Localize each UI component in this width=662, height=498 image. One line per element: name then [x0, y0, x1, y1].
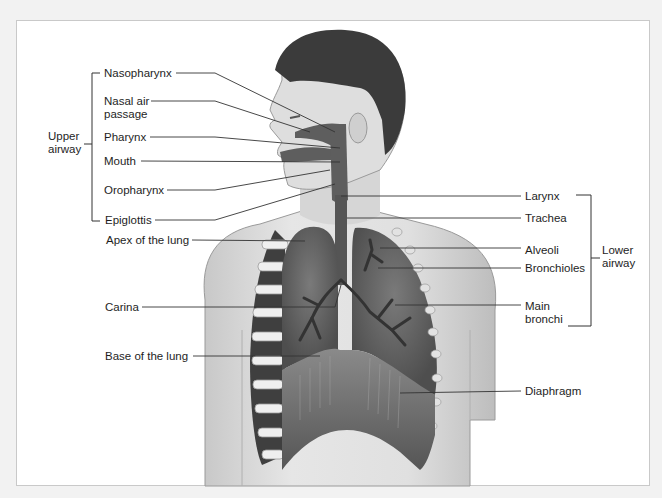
upper-airway-label: Upper airway: [48, 130, 81, 156]
respiratory-illustration: [0, 0, 662, 498]
label-pharynx: Pharynx: [104, 131, 146, 144]
lower-airway-label: Lower airway: [602, 244, 635, 270]
label-diaphragm: Diaphragm: [525, 385, 581, 398]
label-nasopharynx: Nasopharynx: [104, 67, 172, 80]
main-bronchi-line2: bronchi: [525, 313, 563, 326]
label-larynx: Larynx: [525, 190, 560, 203]
upper-airway-line1: Upper: [48, 130, 81, 143]
label-mouth: Mouth: [104, 155, 136, 168]
label-nasal-air-passage: Nasal air passage: [104, 95, 149, 121]
nasal-air-line2: passage: [104, 108, 149, 121]
main-bronchi-line1: Main: [525, 300, 563, 313]
label-trachea: Trachea: [525, 212, 567, 225]
label-apex-of-lung: Apex of the lung: [106, 234, 189, 247]
lower-airway-line2: airway: [602, 257, 635, 270]
label-alveoli: Alveoli: [525, 244, 559, 257]
label-main-bronchi: Main bronchi: [525, 300, 563, 326]
torso: [204, 185, 496, 486]
label-bronchioles: Bronchioles: [525, 262, 585, 275]
label-base-of-lung: Base of the lung: [105, 350, 188, 363]
lower-airway-line1: Lower: [602, 244, 635, 257]
label-carina: Carina: [105, 301, 139, 314]
label-epiglottis: Epiglottis: [105, 214, 152, 227]
nasal-air-line1: Nasal air: [104, 95, 149, 108]
upper-airway-line2: airway: [48, 143, 81, 156]
label-oropharynx: Oropharynx: [104, 184, 164, 197]
